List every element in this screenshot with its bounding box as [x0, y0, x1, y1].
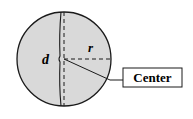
- diagram-svg: Center d r: [0, 0, 193, 119]
- circle-diagram: Center d r: [0, 0, 193, 119]
- diameter-label: d: [42, 52, 50, 67]
- center-label: Center: [133, 70, 171, 85]
